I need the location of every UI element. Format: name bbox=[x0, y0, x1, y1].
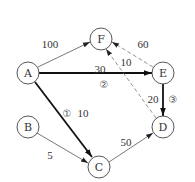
order-a-c: ① bbox=[63, 108, 72, 119]
node-c-label: C bbox=[95, 161, 103, 174]
node-b: B bbox=[17, 116, 39, 138]
weight-a-f: 100 bbox=[42, 38, 59, 50]
node-c: C bbox=[88, 156, 110, 178]
node-f: F bbox=[90, 28, 112, 50]
weight-e-d: 20 bbox=[148, 93, 160, 105]
directed-graph: 100 30 ② ① 10 5 50 20 ③ 60 10 A B C D E … bbox=[0, 0, 195, 182]
node-d: D bbox=[152, 116, 174, 138]
weight-e-f: 60 bbox=[138, 38, 150, 50]
node-a: A bbox=[17, 62, 39, 84]
node-f-label: F bbox=[97, 33, 105, 46]
weight-a-c: 10 bbox=[78, 107, 90, 119]
node-e: E bbox=[152, 62, 174, 84]
node-e-label: E bbox=[159, 67, 167, 80]
weight-d-f: 10 bbox=[121, 56, 133, 68]
weight-b-c: 5 bbox=[47, 149, 53, 161]
weight-a-e: 30 bbox=[95, 63, 107, 75]
order-a-e: ② bbox=[100, 79, 109, 90]
edge-b-c bbox=[37, 133, 88, 163]
node-a-label: A bbox=[23, 67, 33, 80]
weight-c-d: 50 bbox=[121, 136, 133, 148]
node-d-label: D bbox=[159, 121, 168, 134]
order-e-d: ③ bbox=[169, 94, 178, 105]
edge-a-c bbox=[35, 82, 92, 157]
node-b-label: B bbox=[24, 121, 32, 134]
